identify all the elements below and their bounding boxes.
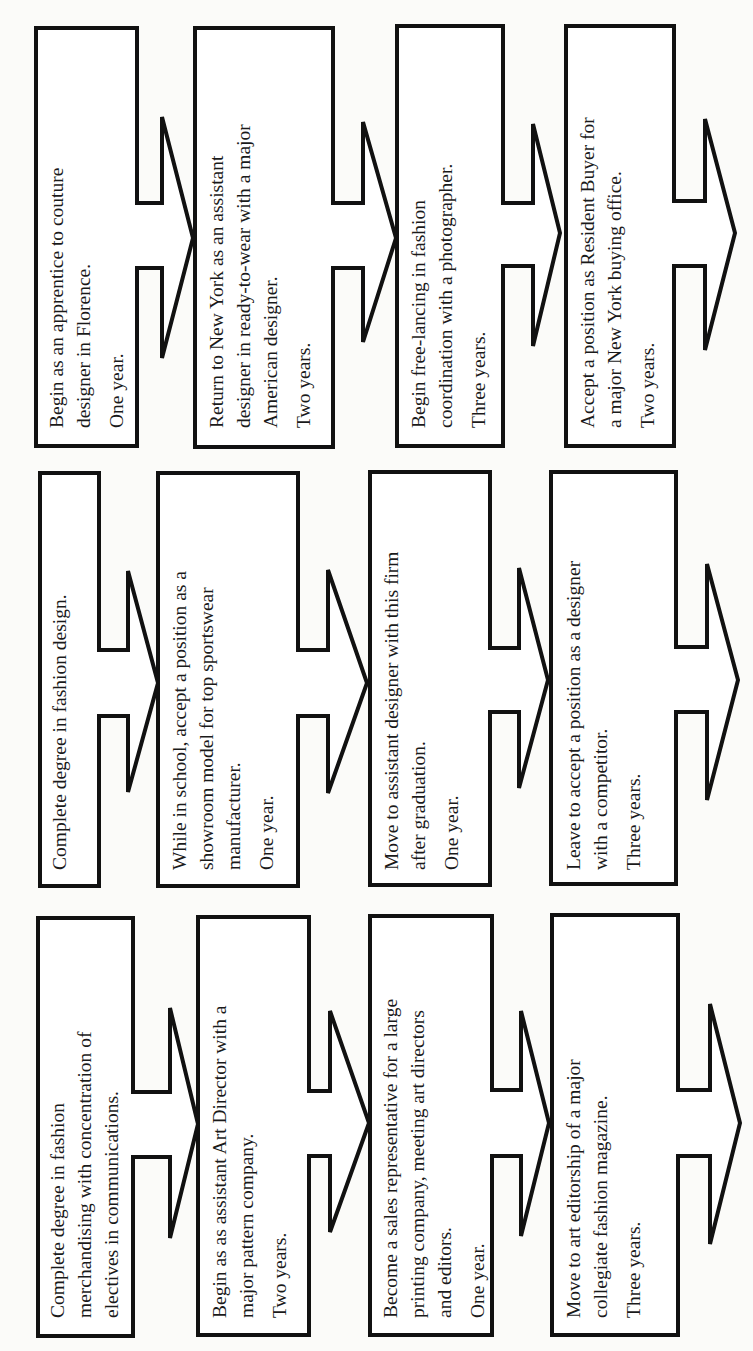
- step-description-line: a major New York buying office.: [604, 171, 625, 428]
- step-description-line: Complete degree in fashion design.: [49, 594, 70, 870]
- step-duration: Two years.: [637, 343, 658, 428]
- step-duration: One year.: [256, 795, 277, 870]
- career-path-diagram: Begin as an apprentice to couturedesigne…: [0, 0, 753, 1351]
- step-description-line: Move to art editorship of a major: [563, 1059, 584, 1318]
- step-description-line: coordination with a photographer.: [435, 164, 456, 428]
- step-description-line: Return to New York as an assistant: [206, 155, 227, 428]
- step-description-line: Begin as an apprentice to couture: [46, 168, 67, 428]
- step-description-line: Move to assistant designer with this fir…: [381, 552, 402, 870]
- step-duration: Three years.: [623, 1222, 644, 1318]
- step-description-line: merchandising with concentration of: [74, 1031, 95, 1318]
- step-description-line: manufacturer.: [223, 762, 244, 870]
- step-description-line: Become a sales representative for a larg…: [380, 999, 401, 1318]
- step-description-line: collegiate fashion magazine.: [590, 1095, 611, 1318]
- step-description-line: Begin free-lancing in fashion: [408, 200, 429, 428]
- step-description-line: major pattern company.: [236, 1134, 257, 1318]
- step-description-line: Leave to accept a position as a designer: [563, 560, 584, 870]
- step-description-line: American designer.: [260, 276, 281, 428]
- step-duration: One year.: [467, 1243, 488, 1318]
- step-description-line: designer in Florence.: [73, 264, 94, 428]
- step-duration: Two years.: [269, 1233, 290, 1318]
- step-description-line: Begin as as assistant Art Director with …: [209, 1005, 230, 1318]
- step-description-line: Accept a position as Resident Buyer for: [577, 117, 598, 428]
- step-duration: Three years.: [468, 332, 489, 428]
- step-duration: One year.: [106, 353, 127, 428]
- step-description-line: after graduation.: [408, 741, 429, 870]
- step-duration: One year.: [441, 795, 462, 870]
- step-description-line: showroom model for top sportswear: [196, 587, 217, 870]
- step-description-line: printing company, meeting art directors: [407, 1010, 428, 1318]
- step-description-line: electives in communications.: [101, 1091, 122, 1318]
- step-description-line: designer in ready-to-wear with a major: [233, 124, 254, 428]
- column-path-1: [36, 26, 735, 447]
- step-text-2-1: Complete degree in fashion design.: [49, 594, 70, 870]
- step-duration: Two years.: [293, 343, 314, 428]
- step-description-line: Complete degree in fashion: [47, 1103, 68, 1318]
- step-description-line: While in school, accept a position as a: [169, 571, 190, 870]
- step-duration: Three years.: [623, 774, 644, 870]
- step-description-line: with a competitor.: [590, 729, 611, 870]
- step-description-line: and editors.: [434, 1227, 455, 1318]
